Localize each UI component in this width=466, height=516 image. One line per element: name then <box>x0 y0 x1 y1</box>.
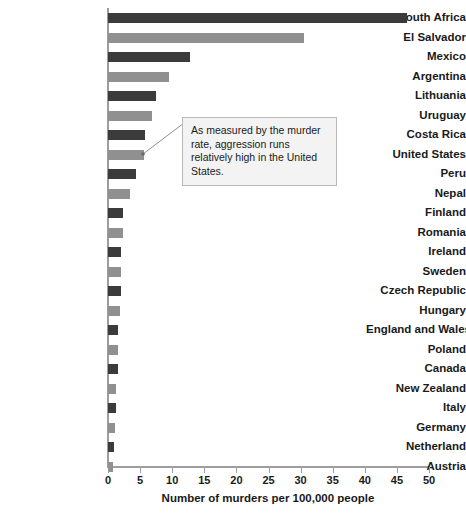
x-axis-tick <box>204 467 205 473</box>
x-axis-tick-label: 40 <box>359 474 371 486</box>
bar-row: Romania <box>0 223 466 243</box>
category-label-uruguay: Uruguay <box>366 106 466 126</box>
bar-row: New Zealand <box>0 379 466 399</box>
bar <box>108 111 152 121</box>
x-axis-tick-label: 15 <box>198 474 210 486</box>
x-axis-tick <box>333 467 334 473</box>
category-label-england-and-wales: England and Wales <box>366 320 466 340</box>
x-axis-tick <box>301 467 302 473</box>
category-label-poland: Poland <box>366 340 466 360</box>
category-label-nepal: Nepal <box>366 184 466 204</box>
category-label-canada: Canada <box>366 359 466 379</box>
bar <box>108 247 121 257</box>
bar-row: Sweden <box>0 262 466 282</box>
x-axis-tick <box>172 467 173 473</box>
category-label-hungary: Hungary <box>366 301 466 321</box>
x-axis-tick <box>429 467 430 473</box>
bar-row: Nepal <box>0 184 466 204</box>
category-label-el-salvador: El Salvador <box>366 28 466 48</box>
bar-row: Finland <box>0 203 466 223</box>
bar <box>108 403 116 413</box>
category-label-peru: Peru <box>366 164 466 184</box>
bar <box>108 325 118 335</box>
category-label-argentina: Argentina <box>366 67 466 87</box>
bar <box>108 228 123 238</box>
bar <box>108 423 115 433</box>
x-axis-tick-label: 50 <box>423 474 435 486</box>
bar <box>108 442 114 452</box>
category-label-finland: Finland <box>366 203 466 223</box>
x-axis-tick-label: 0 <box>105 474 111 486</box>
bar-row: Germany <box>0 418 466 438</box>
bar-row: England and Wales <box>0 320 466 340</box>
plot-area: South AfricaEl SalvadorMexicoArgentinaLi… <box>0 0 466 516</box>
category-label-sweden: Sweden <box>366 262 466 282</box>
x-axis-tick-label: 5 <box>137 474 143 486</box>
bar-row: Argentina <box>0 67 466 87</box>
category-label-mexico: Mexico <box>366 47 466 67</box>
x-axis-tick <box>236 467 237 473</box>
category-label-romania: Romania <box>366 223 466 243</box>
category-label-lithuania: Lithuania <box>366 86 466 106</box>
bar-row: El Salvador <box>0 28 466 48</box>
bar-row: South Africa <box>0 8 466 28</box>
x-axis-tick-label: 20 <box>230 474 242 486</box>
bar <box>108 208 123 218</box>
bar <box>108 91 156 101</box>
bar <box>108 150 144 160</box>
bar-row: Ireland <box>0 242 466 262</box>
x-axis-tick <box>397 467 398 473</box>
bar-row: Canada <box>0 359 466 379</box>
bar <box>108 286 121 296</box>
x-axis-tick-label: 35 <box>327 474 339 486</box>
x-axis-tick <box>140 467 141 473</box>
bar <box>108 267 121 277</box>
bar <box>108 189 130 199</box>
category-label-czech-republic: Czech Republic <box>366 281 466 301</box>
bar <box>108 345 118 355</box>
x-axis-tick-label: 10 <box>166 474 178 486</box>
bar-row: Italy <box>0 398 466 418</box>
x-axis-tick-label: 45 <box>391 474 403 486</box>
callout-annotation: As measured by the murder rate, aggressi… <box>182 117 337 186</box>
bar <box>108 364 118 374</box>
bar-row: Poland <box>0 340 466 360</box>
x-axis-title: Number of murders per 100,000 people <box>107 492 429 504</box>
bar-row: Netherland <box>0 437 466 457</box>
category-label-costa-rica: Costa Rica <box>366 125 466 145</box>
category-label-new-zealand: New Zealand <box>366 379 466 399</box>
x-axis-tick-label: 25 <box>262 474 274 486</box>
murder-rate-bar-chart: South AfricaEl SalvadorMexicoArgentinaLi… <box>0 0 466 516</box>
category-label-germany: Germany <box>366 418 466 438</box>
x-axis-tick <box>269 467 270 473</box>
bar <box>108 130 145 140</box>
x-axis-tick <box>365 467 366 473</box>
category-label-austria: Austria <box>366 457 466 477</box>
x-axis-tick <box>108 467 109 473</box>
bar <box>108 13 407 23</box>
category-label-netherland: Netherland <box>366 437 466 457</box>
bar <box>108 52 190 62</box>
category-label-ireland: Ireland <box>366 242 466 262</box>
bar <box>108 33 304 43</box>
bar <box>108 306 120 316</box>
category-label-united-states: United States <box>366 145 466 165</box>
bar <box>108 72 169 82</box>
category-label-italy: Italy <box>366 398 466 418</box>
bar-row: Hungary <box>0 301 466 321</box>
bar-row: Mexico <box>0 47 466 67</box>
bar <box>108 384 116 394</box>
x-axis-tick-label: 30 <box>294 474 306 486</box>
bar-row: Lithuania <box>0 86 466 106</box>
bar-row: Czech Republic <box>0 281 466 301</box>
bar <box>108 169 136 179</box>
